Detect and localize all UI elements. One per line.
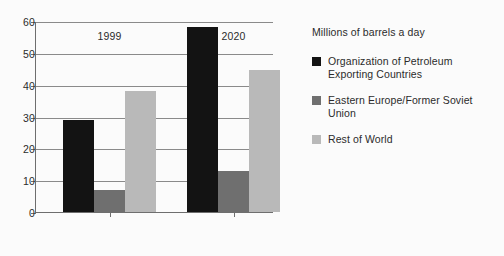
- x-tick-mark: [234, 213, 235, 217]
- legend-item-label: Eastern Europe/Former Soviet Union: [328, 94, 498, 120]
- x-tick-label-1999: 1999: [97, 30, 121, 42]
- y-tick-label: 20: [23, 143, 35, 155]
- legend-swatch-icon: [312, 96, 321, 105]
- bar-efsu-2020: [218, 171, 249, 212]
- legend-swatch-icon: [312, 57, 321, 66]
- y-tick-label: 0: [29, 207, 35, 219]
- legend-item: Rest of World: [312, 133, 498, 146]
- y-tick-label: 30: [23, 112, 35, 124]
- legend-item-label: Organization of Petroleum Exporting Coun…: [328, 55, 498, 81]
- y-tick-label: 10: [23, 175, 35, 187]
- x-axis-line: [35, 212, 273, 213]
- plot-area: 0102030405060 19992020: [35, 22, 272, 213]
- x-tick-label-2020: 2020: [221, 30, 245, 42]
- bar-rest-1999: [125, 91, 156, 212]
- legend: Millions of barrels a day Organization o…: [312, 26, 498, 159]
- y-tick-label: 60: [23, 16, 35, 28]
- bar-chart-figure: 0102030405060 19992020 Millions of barre…: [0, 0, 504, 256]
- y-tick-label: 50: [23, 48, 35, 60]
- legend-item-label: Rest of World: [328, 133, 393, 146]
- bar-opec-1999: [63, 120, 94, 212]
- legend-item: Organization of Petroleum Exporting Coun…: [312, 55, 498, 81]
- legend-title: Millions of barrels a day: [312, 26, 498, 38]
- bar-rest-2020: [249, 70, 280, 212]
- bars-layer: [36, 21, 273, 212]
- legend-swatch-icon: [312, 135, 321, 144]
- bar-efsu-1999: [94, 190, 125, 212]
- legend-items: Organization of Petroleum Exporting Coun…: [312, 55, 498, 146]
- y-tick-label: 40: [23, 80, 35, 92]
- bar-opec-2020: [187, 27, 218, 212]
- legend-item: Eastern Europe/Former Soviet Union: [312, 94, 498, 120]
- x-tick-mark: [110, 213, 111, 217]
